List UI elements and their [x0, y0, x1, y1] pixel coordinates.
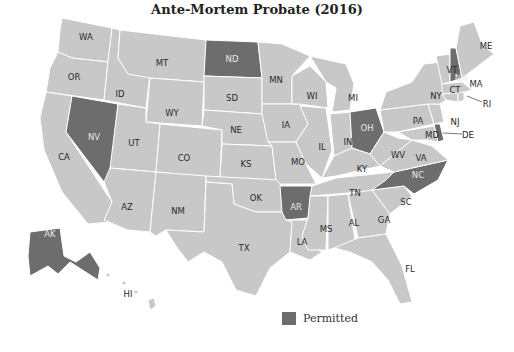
- label-co: CO: [178, 153, 191, 163]
- label-nc: NC: [412, 170, 424, 180]
- label-wa: WA: [79, 32, 93, 42]
- label-fl: FL: [405, 264, 415, 274]
- label-hi: HI: [124, 289, 133, 299]
- state-ny: [380, 62, 446, 110]
- label-mo: MO: [291, 157, 305, 167]
- label-nh: NH: [455, 73, 468, 83]
- label-az: AZ: [121, 202, 133, 212]
- label-ut: UT: [128, 138, 140, 148]
- label-wy: WY: [165, 108, 179, 118]
- label-tn: TN: [348, 188, 361, 198]
- label-ma: MA: [469, 79, 482, 89]
- state-az: [104, 168, 156, 232]
- label-md: MD: [425, 130, 439, 140]
- state-hi: [148, 298, 156, 310]
- label-oh: OH: [360, 123, 373, 133]
- legend-label-permitted: Permitted: [303, 312, 358, 325]
- state-fl: [334, 234, 412, 304]
- label-ky: KY: [357, 164, 368, 174]
- label-tx: TX: [237, 243, 249, 253]
- label-wv: WV: [391, 150, 405, 160]
- label-ms: MS: [320, 224, 333, 234]
- state-wy: [146, 78, 204, 126]
- label-sc: SC: [400, 197, 411, 207]
- label-ga: GA: [378, 215, 391, 225]
- label-nm: NM: [171, 206, 185, 216]
- state-nm: [150, 172, 206, 236]
- label-ca: CA: [58, 152, 70, 162]
- label-me: ME: [480, 41, 493, 51]
- map-figure: Ante-Mortem Probate (2016): [0, 0, 514, 352]
- label-nd: ND: [226, 54, 239, 64]
- label-al: AL: [349, 218, 360, 228]
- label-ks: KS: [241, 159, 252, 169]
- label-in: IN: [344, 137, 353, 147]
- label-ne: NE: [230, 125, 242, 135]
- label-ak: AK: [44, 229, 56, 239]
- label-ia: IA: [282, 120, 291, 130]
- state-ak: [28, 228, 100, 280]
- label-ok: OK: [250, 193, 263, 203]
- state-mt: [118, 30, 206, 82]
- label-de: DE: [462, 130, 474, 140]
- state-co: [156, 124, 222, 178]
- label-ny: NY: [430, 91, 442, 101]
- label-il: IL: [318, 142, 326, 152]
- legend-swatch-permitted: [282, 312, 296, 325]
- label-nj: NJ: [451, 117, 460, 127]
- label-pa: PA: [413, 116, 424, 126]
- label-or: OR: [68, 72, 81, 82]
- label-mi: MI: [348, 93, 358, 103]
- label-va: VA: [415, 153, 426, 163]
- label-id: ID: [115, 89, 125, 99]
- label-ri: RI: [483, 99, 491, 109]
- label-nv: NV: [88, 132, 100, 142]
- label-mn: MN: [269, 75, 283, 85]
- label-la: LA: [297, 237, 308, 247]
- label-ar: AR: [290, 202, 302, 212]
- label-wi: WI: [307, 91, 318, 101]
- label-mt: MT: [156, 58, 169, 68]
- label-ct: CT: [449, 85, 461, 95]
- legend: Permitted: [282, 312, 358, 325]
- us-map: WA OR CA ID NV MT WY UT AZ CO NM ND SD N…: [0, 0, 514, 352]
- label-sd: SD: [226, 93, 238, 103]
